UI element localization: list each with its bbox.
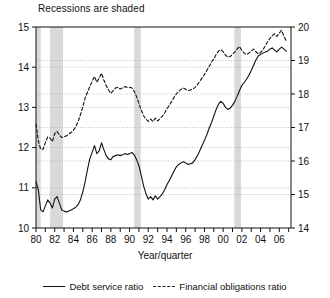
legend-label-debt-service-ratio: Debt service ratio <box>69 281 143 292</box>
tick-label-x-80: 80 <box>30 234 42 245</box>
tick-label-left-12: 12 <box>18 142 30 153</box>
tick-label-x-96: 96 <box>180 234 192 245</box>
legend-label-financial-obligations-ratio: Financial obligations ratio <box>179 281 286 292</box>
tick-label-right-19: 19 <box>298 55 310 66</box>
tick-label-x-84: 84 <box>68 234 80 245</box>
tick-label-x-06: 06 <box>274 234 286 245</box>
tick-label-x-98: 98 <box>199 234 211 245</box>
tick-label-x-02: 02 <box>236 234 248 245</box>
tick-label-x-90: 90 <box>124 234 136 245</box>
tick-label-right-14: 14 <box>298 223 310 234</box>
chart-legend: Debt service ratio Financial obligations… <box>0 281 330 292</box>
tick-label-x-04: 04 <box>255 234 267 245</box>
tick-label-right-15: 15 <box>298 189 310 200</box>
legend-item-debt-service-ratio: Debt service ratio <box>43 281 143 292</box>
legend-line-solid-icon <box>43 283 65 290</box>
tick-label-left-13: 13 <box>18 102 30 113</box>
x-axis-label: Year/quarter <box>0 250 330 261</box>
tick-label-x-94: 94 <box>161 234 173 245</box>
tick-label-x-00: 00 <box>218 234 230 245</box>
recession-band-4 <box>234 27 241 228</box>
tick-label-x-92: 92 <box>143 234 155 245</box>
legend-item-financial-obligations-ratio: Financial obligations ratio <box>153 281 286 292</box>
tick-label-right-18: 18 <box>298 89 310 100</box>
tick-label-x-86: 86 <box>87 234 99 245</box>
tick-label-left-10: 10 <box>18 223 30 234</box>
tick-label-right-16: 16 <box>298 156 310 167</box>
tick-label-x-82: 82 <box>49 234 61 245</box>
tick-label-right-20: 20 <box>298 22 310 33</box>
legend-line-dashed-icon <box>153 283 175 290</box>
tick-label-left-14: 14 <box>18 62 30 73</box>
chart-root: Recessions are shaded 101112131415141516… <box>0 0 330 298</box>
tick-label-left-11: 11 <box>19 182 30 193</box>
tick-label-x-88: 88 <box>105 234 117 245</box>
tick-label-right-17: 17 <box>298 122 310 133</box>
tick-label-left-15: 15 <box>18 22 30 33</box>
